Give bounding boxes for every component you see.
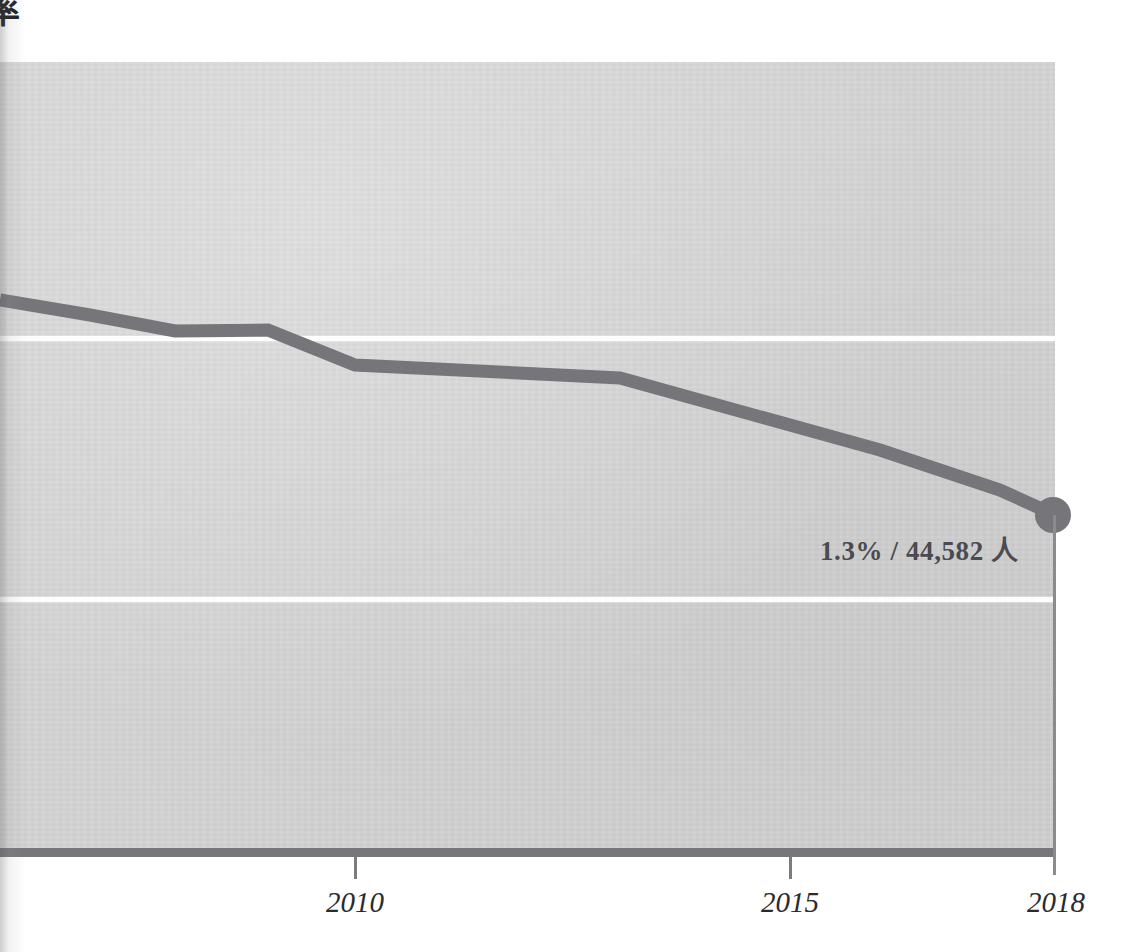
x-tick-2015 <box>789 857 792 879</box>
x-label-2010: 2010 <box>326 886 384 919</box>
scanned-page: 率 2010 2015 2018 1.3% / 44,582 人 <box>0 0 1139 952</box>
tick-2018-guide <box>1053 515 1056 875</box>
plot-area <box>0 62 1055 848</box>
y-axis-title-clipped: 率 <box>0 0 19 28</box>
series-line-chart <box>0 62 1055 848</box>
x-label-2018: 2018 <box>1027 886 1085 919</box>
x-label-2015: 2015 <box>761 886 819 919</box>
x-axis-bar <box>0 848 1056 857</box>
x-tick-2010 <box>354 857 357 879</box>
series-polyline <box>0 300 1055 515</box>
endpoint-value-callout: 1.3% / 44,582 人 <box>820 529 1019 568</box>
